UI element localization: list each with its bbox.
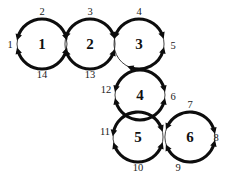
circle-number-3: 3	[135, 36, 143, 52]
edge-label-1: 1	[7, 39, 12, 50]
circle-chain-figure: 123456 1234567891011121314	[0, 0, 226, 182]
circle-number-2: 2	[86, 36, 94, 52]
edge-label-2: 2	[39, 6, 44, 17]
edge-label-10: 10	[133, 162, 144, 173]
circle-number-1: 1	[38, 36, 46, 52]
edge-label-6: 6	[170, 91, 175, 102]
edge-label-7: 7	[187, 99, 192, 110]
edge-label-8: 8	[213, 132, 218, 143]
circle-number-6: 6	[186, 129, 194, 145]
figure-background	[0, 0, 226, 182]
edge-label-5: 5	[170, 40, 175, 51]
edge-label-9: 9	[175, 162, 180, 173]
edge-label-13: 13	[85, 69, 96, 80]
edge-label-14: 14	[37, 69, 48, 80]
diagram-canvas: 123456 1234567891011121314	[0, 0, 226, 182]
edge-label-11: 11	[100, 126, 110, 137]
edge-label-4: 4	[136, 6, 142, 17]
circle-number-5: 5	[134, 129, 142, 145]
edge-label-3: 3	[87, 6, 92, 17]
circle-number-4: 4	[136, 87, 144, 103]
edge-label-12: 12	[101, 84, 112, 95]
